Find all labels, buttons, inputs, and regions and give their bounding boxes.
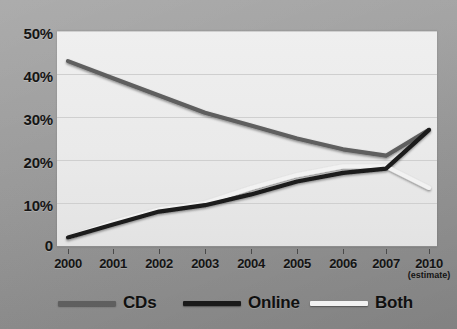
legend-swatch-both [310,301,368,306]
legend-item-cds: CDs [58,290,156,316]
legend-item-online: Online [183,290,300,316]
series-line-cds [68,61,429,156]
legend-label-both: Both [375,293,413,313]
legend-swatch-cds [58,301,116,306]
chart-screenshot: 50% 40% 30% 20% 10% 0 2000 2001 2002 200… [0,0,457,329]
series-layer [0,0,457,329]
legend-label-online: Online [248,293,300,313]
legend-item-both: Both [310,290,413,316]
chart-legend: CDs Online Both [0,290,457,320]
legend-swatch-online [183,301,241,306]
series-line-both [68,166,429,237]
legend-label-cds: CDs [123,293,156,313]
series-line-online [68,130,429,238]
